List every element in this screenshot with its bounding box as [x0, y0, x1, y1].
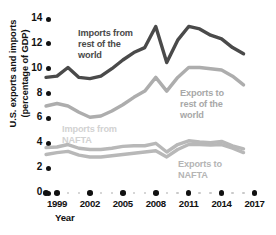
x-tick-marker-major	[219, 190, 225, 196]
annotation-imports-rest-of-world: Imports from rest of the world	[78, 28, 133, 61]
chart-container: U.S. exports and imports (percentage of …	[0, 0, 276, 235]
x-tick-marker-minor	[198, 192, 200, 194]
x-tick-marker-minor	[176, 192, 178, 194]
x-tick-marker-major	[153, 190, 159, 196]
series-line	[46, 26, 244, 78]
x-tick-label: 2011	[172, 198, 206, 209]
x-tick-label: 2008	[139, 198, 173, 209]
annotation-imports-nafta: Imports from NAFTA	[62, 124, 117, 146]
x-tick-label: 1999	[40, 198, 74, 209]
x-tick-marker-minor	[209, 192, 211, 194]
x-tick-label: 2014	[205, 198, 239, 209]
x-tick-marker-major	[252, 190, 258, 196]
x-tick-marker-minor	[242, 192, 244, 194]
x-tick-label: 2002	[73, 198, 107, 209]
x-tick-marker-major	[120, 190, 126, 196]
annotation-exports-rest-of-world: Exports to rest of the world	[180, 88, 224, 121]
x-tick-marker-major	[54, 190, 60, 196]
x-tick-marker-minor	[166, 192, 168, 194]
x-tick-label: 2017	[238, 198, 272, 209]
x-tick-marker-major	[87, 190, 93, 196]
annotation-exports-nafta: Exports to NAFTA	[178, 159, 222, 181]
x-tick-marker-major	[43, 190, 49, 196]
x-tick-label: 2005	[106, 198, 140, 209]
x-axis-title: Year	[55, 212, 74, 223]
x-tick-marker-minor	[231, 192, 233, 194]
